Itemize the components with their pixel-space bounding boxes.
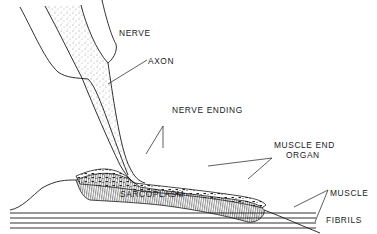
label-muscle: MUSCLE — [330, 188, 369, 198]
label-nerve: NERVE — [119, 28, 151, 38]
label-axon: AXON — [148, 56, 174, 66]
nerve-muscle-diagram: NERVE AXON NERVE ENDING MUSCLE END ORGAN… — [0, 0, 377, 234]
label-nerve-ending: NERVE ENDING — [172, 105, 243, 115]
fibrils — [10, 213, 316, 228]
label-sarcoplasm: SARCOPLASM — [120, 189, 184, 199]
label-muscle-end-organ-line2: ORGAN — [286, 150, 320, 160]
label-fibrils: FIBRILS — [326, 215, 362, 225]
label-muscle-end-organ-line1: MUSCLE END — [274, 140, 335, 150]
